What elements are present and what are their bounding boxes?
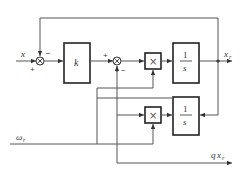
sign-sum1-minus: −	[46, 49, 51, 58]
label-omega-r: ω r	[16, 132, 26, 143]
xr-to-integrator2-line	[200, 61, 218, 115]
integrator-2	[173, 97, 199, 135]
svg-text:s: s	[183, 63, 187, 73]
sign-sum2-minus: −	[121, 66, 126, 75]
label-qxr: q x r	[211, 150, 225, 161]
label-k: k	[74, 57, 79, 68]
summing-junction-1	[36, 57, 44, 65]
svg-text:x: x	[216, 150, 221, 160]
block-diagram: x + − k + − × × 1 s 1 s x r ω r q x r	[0, 0, 245, 173]
mult2-symbol: ×	[149, 110, 157, 121]
sign-sum1-plus: +	[30, 65, 35, 74]
label-x: x	[20, 49, 25, 59]
svg-text:x: x	[223, 49, 228, 59]
svg-text:1: 1	[183, 104, 188, 114]
svg-text:ω: ω	[16, 132, 22, 142]
summing-junction-2	[113, 57, 121, 65]
svg-text:r: r	[23, 137, 26, 143]
svg-text:1: 1	[183, 50, 188, 60]
mult1-symbol: ×	[149, 56, 157, 67]
svg-text:s: s	[183, 117, 187, 127]
sign-sum2-plus: +	[103, 51, 108, 60]
svg-text:q: q	[211, 150, 216, 160]
label-xr: x r	[223, 49, 232, 60]
svg-text:r: r	[229, 54, 232, 60]
svg-text:r: r	[222, 155, 225, 161]
